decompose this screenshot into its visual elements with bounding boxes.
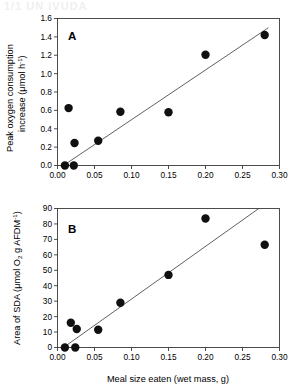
x-tick-label: 0.10	[123, 352, 140, 362]
y-tick-label: 40	[43, 281, 53, 291]
data-point	[67, 319, 75, 327]
panel-a-frame	[58, 19, 280, 166]
data-point	[94, 136, 102, 144]
data-point	[64, 104, 72, 112]
data-point	[61, 161, 69, 169]
x-tick-label: 0.30	[271, 352, 288, 362]
panel-b-y-axis-title: Area of SDA (μmol O2 g AFDM-1)	[11, 211, 24, 345]
panel-b-ylabel-mu: μmol O	[12, 259, 22, 289]
y-tick-label: 10	[43, 327, 53, 337]
data-point	[116, 108, 124, 116]
panel-a-datapoints	[61, 31, 269, 170]
data-point	[70, 139, 78, 147]
panel-a-x-ticks	[58, 166, 280, 170]
x-tick-label: 0.25	[234, 352, 251, 362]
panel-a-x-ticklabels: 0.000.050.100.150.200.250.30	[49, 170, 288, 180]
data-point	[73, 325, 81, 333]
panel-a-ylabel-line2: increase (μmol h-1)	[16, 55, 27, 132]
y-tick-label: 1.2	[40, 50, 52, 60]
panel-a: 0.00.20.40.60.81.01.21.41.6 0.000.050.10…	[5, 13, 288, 180]
x-tick-label: 0.00	[49, 352, 66, 362]
x-tick-label: 0.30	[271, 170, 288, 180]
x-tick-label: 0.15	[160, 352, 177, 362]
panel-b-datapoints	[61, 214, 269, 351]
y-tick-label: 80	[43, 219, 53, 229]
y-tick-label: 50	[43, 265, 53, 275]
panel-b-ylabel-post: )	[12, 211, 22, 214]
y-tick-label: 0.6	[40, 105, 52, 115]
data-point	[94, 326, 102, 334]
x-tick-label: 0.20	[197, 170, 214, 180]
y-tick-label: 0.0	[40, 160, 52, 170]
data-point	[164, 271, 172, 279]
data-point	[70, 161, 78, 169]
x-tick-label: 0.15	[160, 170, 177, 180]
y-tick-label: 1.6	[40, 13, 52, 23]
panel-a-regression-line	[63, 28, 268, 166]
data-point	[201, 214, 209, 222]
panel-b-label: B	[68, 223, 76, 235]
x-tick-label: 0.10	[123, 170, 140, 180]
y-tick-label: 0.8	[40, 87, 52, 97]
y-tick-label: 30	[43, 296, 53, 306]
y-tick-label: 1.0	[40, 69, 52, 79]
panel-a-y-ticks	[54, 19, 58, 166]
y-tick-label: 0	[47, 342, 52, 352]
panel-a-ylabel-line1: Peak oxygen consumption	[5, 44, 15, 152]
data-point	[164, 108, 172, 116]
panel-b-ylabel-pre: Area of SDA (	[12, 289, 22, 345]
panel-b: 0102030405060708090 0.000.050.100.150.20…	[11, 203, 288, 384]
panel-b-regression-line	[63, 209, 258, 348]
panel-a-y-ticklabels: 0.00.20.40.60.81.01.21.41.6	[40, 13, 52, 170]
data-point	[61, 343, 69, 351]
panel-a-y-axis-title: Peak oxygen consumption increase (μmol h…	[5, 44, 27, 152]
panel-b-x-ticks	[58, 348, 280, 352]
data-point	[201, 51, 209, 59]
x-tick-label: 0.05	[86, 352, 103, 362]
x-tick-label: 0.00	[49, 170, 66, 180]
y-tick-label: 20	[43, 312, 53, 322]
data-point	[116, 299, 124, 307]
panel-b-x-ticklabels: 0.000.050.100.150.200.250.30	[49, 352, 288, 362]
data-point	[261, 241, 269, 249]
figure-container: 0.00.20.40.60.81.01.21.41.6 0.000.050.10…	[0, 0, 297, 390]
y-tick-label: 60	[43, 250, 53, 260]
panel-b-ylabel: Area of SDA (μmol O2 g AFDM-1)	[11, 211, 24, 345]
panel-a-ylabel-post: )	[17, 55, 27, 58]
panel-a-ylabel-mu: μmol h	[17, 64, 27, 92]
panel-b-ylabel-mid: g AFDM	[12, 220, 22, 256]
data-point	[261, 31, 269, 39]
y-tick-label: 90	[43, 203, 53, 213]
y-tick-label: 0.4	[40, 124, 52, 134]
x-tick-label: 0.20	[197, 352, 214, 362]
panel-b-y-ticklabels: 0102030405060708090	[43, 203, 53, 352]
panel-b-y-ticks	[54, 209, 58, 348]
y-tick-label: 0.2	[40, 142, 52, 152]
figure-svg: 0.00.20.40.60.81.01.21.41.6 0.000.050.10…	[0, 0, 297, 390]
x-tick-label: 0.25	[234, 170, 251, 180]
y-tick-label: 1.4	[40, 32, 52, 42]
panel-a-label: A	[68, 30, 76, 42]
y-tick-label: 70	[43, 234, 53, 244]
panel-a-ylabel-pre: increase (	[17, 92, 27, 132]
x-axis-title: Meal size eaten (wet mass, g)	[107, 374, 229, 384]
x-tick-label: 0.05	[86, 170, 103, 180]
data-point	[71, 343, 79, 351]
